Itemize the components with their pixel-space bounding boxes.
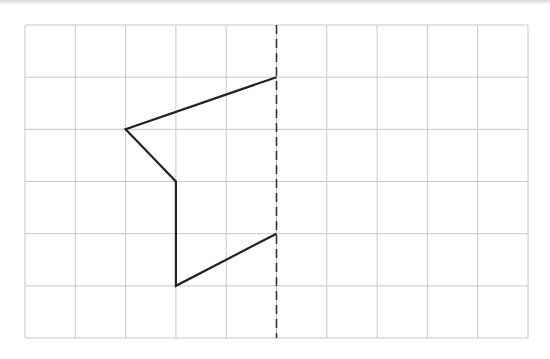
reflection-grid-diagram (0, 0, 550, 359)
